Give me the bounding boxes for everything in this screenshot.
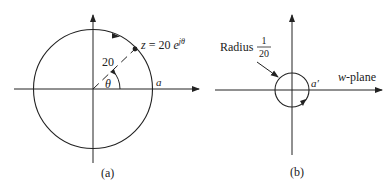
panel-b: Radius 1 20 w-plane a′ (b) [215,15,382,179]
radius-fraction-numerator: 1 [262,35,267,46]
intercept-label-b: a′ [311,77,320,89]
caption-a: (a) [101,166,114,180]
theta-arrow-icon [110,69,116,75]
complex-mapping-diagram: z = 20 ejθ 20 θ a (a) Radius 1 20 w-plan… [0,0,389,186]
w-plane-label: w-plane [338,70,376,84]
point-z [133,47,138,52]
caption-b: (b) [290,165,304,179]
radius-fraction-denominator: 20 [259,48,269,59]
radius-pointer-arrow [257,62,278,77]
radius-label-a: 20 [102,55,114,69]
point-label: z = 20 ejθ [140,37,185,52]
intercept-label-a: a [156,76,162,88]
radius-label-b: Radius [220,40,254,54]
panel-a: z = 20 ejθ 20 θ a (a) [14,15,199,180]
angle-label: θ [105,77,111,91]
